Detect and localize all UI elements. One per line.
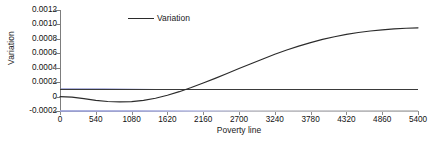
x-axis-title: Poverty line xyxy=(60,125,418,135)
legend: Variation xyxy=(128,12,190,24)
x-axis-tick-labels: 0540108016202160270032403780432048605400 xyxy=(0,114,433,125)
x-tick-label: 3780 xyxy=(301,114,319,125)
x-tick-label: 4320 xyxy=(337,114,355,125)
chart-container: Variation 0.00120.00100.00080.00060.0004… xyxy=(0,0,433,144)
x-tick-label: 5400 xyxy=(409,114,427,125)
x-tick-label: 540 xyxy=(89,114,103,125)
x-tick-label: 3240 xyxy=(266,114,284,125)
legend-label-variation: Variation xyxy=(157,12,190,24)
x-tick-label: 1620 xyxy=(158,114,176,125)
x-tick-label: 2160 xyxy=(194,114,212,125)
x-tick-label: 2700 xyxy=(230,114,248,125)
x-tick-label: 4860 xyxy=(373,114,391,125)
x-tick-label: 0 xyxy=(58,114,63,125)
x-tick-label: 1080 xyxy=(122,114,140,125)
legend-swatch-variation xyxy=(128,18,154,19)
